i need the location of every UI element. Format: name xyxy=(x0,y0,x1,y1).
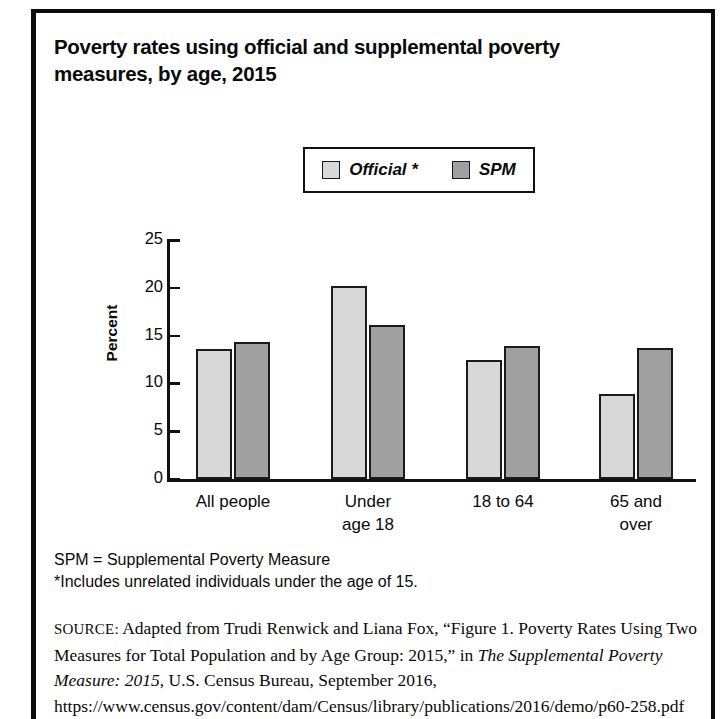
category-label-line: 65 and xyxy=(556,490,716,513)
note-abbreviation: SPM = Supplemental Poverty Measure xyxy=(54,549,694,571)
bar-official-3 xyxy=(599,394,635,479)
legend-item-spm: SPM xyxy=(452,160,516,180)
y-tick-mark xyxy=(167,478,180,481)
category-label-line: over xyxy=(556,513,716,536)
legend-item-official: Official * xyxy=(322,160,418,180)
y-tick-mark xyxy=(167,382,180,385)
bar-official-2 xyxy=(466,360,502,479)
bar-official-1 xyxy=(331,286,367,479)
figure-frame: Poverty rates using official and supplem… xyxy=(31,9,715,719)
y-tick-label: 25 xyxy=(145,229,163,248)
note-footnote: *Includes unrelated individuals under th… xyxy=(54,571,694,593)
bar-spm-1 xyxy=(369,325,405,479)
category-label-line: age 18 xyxy=(288,513,448,536)
y-tick-label: 15 xyxy=(145,325,163,344)
y-tick-label: 20 xyxy=(145,277,163,296)
x-axis-line xyxy=(167,479,696,482)
bar-spm-0 xyxy=(234,342,270,479)
y-tick-mark xyxy=(167,430,180,433)
bar-spm-3 xyxy=(637,348,673,479)
y-axis-label: Percent xyxy=(103,305,121,362)
y-tick-mark xyxy=(167,239,180,242)
bar-spm-2 xyxy=(504,346,540,479)
chart-notes: SPM = Supplemental Poverty Measure *Incl… xyxy=(54,549,694,593)
y-axis-line xyxy=(167,240,170,481)
legend-swatch-spm xyxy=(452,161,470,179)
y-tick-mark xyxy=(167,287,180,290)
y-tick-label: 10 xyxy=(145,372,163,391)
legend-label-spm: SPM xyxy=(479,160,516,180)
legend-label-official: Official * xyxy=(349,160,418,180)
category-label-3: 65 andover xyxy=(556,490,716,536)
source-note: SOURCE: Adapted from Trudi Renwick and L… xyxy=(54,616,704,719)
chart-legend: Official * SPM xyxy=(303,147,535,193)
source-label: SOURCE: xyxy=(54,621,119,637)
page-title: Poverty rates using official and supplem… xyxy=(54,33,614,87)
legend-swatch-official xyxy=(322,161,340,179)
y-tick-mark xyxy=(167,335,180,338)
y-tick-label: 5 xyxy=(154,420,163,439)
y-tick-label: 0 xyxy=(154,468,163,487)
bar-official-0 xyxy=(196,349,232,479)
bar-chart-plot: Percent 0510152025 All peopleUnderage 18… xyxy=(136,228,696,493)
